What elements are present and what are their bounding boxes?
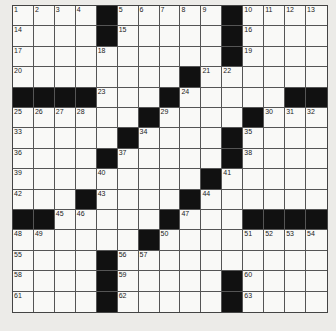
grid-cell[interactable]: 43	[97, 190, 118, 210]
grid-cell[interactable]	[76, 230, 97, 250]
grid-cell[interactable]	[160, 271, 181, 291]
grid-cell[interactable]: 14	[13, 26, 34, 46]
grid-cell[interactable]: 5	[118, 6, 139, 26]
grid-cell[interactable]	[118, 47, 139, 67]
grid-cell[interactable]: 17	[13, 47, 34, 67]
grid-cell[interactable]: 27	[55, 108, 76, 128]
grid-cell[interactable]: 11	[264, 6, 285, 26]
grid-cell[interactable]	[139, 210, 160, 230]
grid-cell[interactable]	[285, 149, 306, 169]
grid-cell[interactable]	[264, 128, 285, 148]
grid-cell[interactable]	[160, 26, 181, 46]
grid-cell[interactable]	[139, 26, 160, 46]
grid-cell[interactable]	[139, 67, 160, 87]
grid-cell[interactable]: 42	[13, 190, 34, 210]
grid-cell[interactable]	[243, 190, 264, 210]
grid-cell[interactable]	[118, 108, 139, 128]
grid-cell[interactable]	[201, 210, 222, 230]
grid-cell[interactable]: 39	[13, 169, 34, 189]
grid-cell[interactable]	[306, 26, 327, 46]
grid-cell[interactable]	[139, 190, 160, 210]
grid-cell[interactable]	[55, 149, 76, 169]
grid-cell[interactable]: 61	[13, 292, 34, 312]
grid-cell[interactable]	[243, 88, 264, 108]
grid-cell[interactable]	[222, 210, 243, 230]
grid-cell[interactable]	[243, 67, 264, 87]
grid-cell[interactable]	[55, 251, 76, 271]
grid-cell[interactable]	[264, 169, 285, 189]
grid-cell[interactable]: 60	[243, 271, 264, 291]
grid-cell[interactable]: 34	[139, 128, 160, 148]
grid-cell[interactable]: 54	[306, 230, 327, 250]
grid-cell[interactable]	[306, 169, 327, 189]
grid-cell[interactable]	[180, 108, 201, 128]
grid-cell[interactable]: 9	[201, 6, 222, 26]
grid-cell[interactable]	[34, 26, 55, 46]
grid-cell[interactable]	[264, 271, 285, 291]
grid-cell[interactable]	[201, 47, 222, 67]
grid-cell[interactable]	[201, 149, 222, 169]
grid-cell[interactable]	[285, 169, 306, 189]
grid-cell[interactable]	[264, 47, 285, 67]
grid-cell[interactable]: 1	[13, 6, 34, 26]
grid-cell[interactable]	[180, 47, 201, 67]
grid-cell[interactable]: 2	[34, 6, 55, 26]
grid-cell[interactable]	[118, 230, 139, 250]
grid-cell[interactable]	[180, 149, 201, 169]
grid-cell[interactable]	[243, 169, 264, 189]
grid-cell[interactable]	[160, 47, 181, 67]
grid-cell[interactable]	[285, 128, 306, 148]
grid-cell[interactable]	[118, 190, 139, 210]
grid-cell[interactable]	[34, 251, 55, 271]
grid-cell[interactable]: 44	[201, 190, 222, 210]
grid-cell[interactable]: 10	[243, 6, 264, 26]
grid-cell[interactable]: 58	[13, 271, 34, 291]
grid-cell[interactable]	[264, 292, 285, 312]
grid-cell[interactable]	[264, 251, 285, 271]
grid-cell[interactable]: 47	[180, 210, 201, 230]
grid-cell[interactable]	[201, 128, 222, 148]
grid-cell[interactable]	[34, 292, 55, 312]
grid-cell[interactable]: 4	[76, 6, 97, 26]
grid-cell[interactable]	[97, 128, 118, 148]
grid-cell[interactable]: 40	[97, 169, 118, 189]
grid-cell[interactable]: 50	[160, 230, 181, 250]
grid-cell[interactable]	[97, 210, 118, 230]
grid-cell[interactable]: 19	[243, 47, 264, 67]
grid-cell[interactable]	[118, 210, 139, 230]
grid-cell[interactable]	[180, 26, 201, 46]
grid-cell[interactable]: 51	[243, 230, 264, 250]
grid-cell[interactable]	[55, 271, 76, 291]
grid-cell[interactable]	[76, 47, 97, 67]
grid-cell[interactable]: 13	[306, 6, 327, 26]
grid-cell[interactable]	[160, 251, 181, 271]
grid-cell[interactable]: 46	[76, 210, 97, 230]
grid-cell[interactable]	[34, 169, 55, 189]
grid-cell[interactable]	[55, 169, 76, 189]
grid-cell[interactable]	[55, 47, 76, 67]
grid-cell[interactable]	[201, 271, 222, 291]
grid-cell[interactable]	[180, 128, 201, 148]
grid-cell[interactable]	[139, 271, 160, 291]
grid-cell[interactable]	[97, 230, 118, 250]
grid-cell[interactable]: 21	[201, 67, 222, 87]
grid-cell[interactable]	[201, 88, 222, 108]
grid-cell[interactable]: 37	[118, 149, 139, 169]
grid-cell[interactable]	[76, 67, 97, 87]
grid-cell[interactable]: 7	[160, 6, 181, 26]
grid-cell[interactable]	[201, 251, 222, 271]
grid-cell[interactable]	[306, 271, 327, 291]
grid-cell[interactable]: 8	[180, 6, 201, 26]
grid-cell[interactable]	[180, 169, 201, 189]
grid-cell[interactable]: 49	[34, 230, 55, 250]
grid-cell[interactable]: 52	[264, 230, 285, 250]
grid-cell[interactable]	[201, 230, 222, 250]
grid-cell[interactable]: 41	[222, 169, 243, 189]
grid-cell[interactable]: 29	[160, 108, 181, 128]
grid-cell[interactable]	[139, 149, 160, 169]
grid-cell[interactable]	[97, 108, 118, 128]
grid-cell[interactable]	[139, 88, 160, 108]
grid-cell[interactable]	[264, 67, 285, 87]
grid-cell[interactable]	[285, 47, 306, 67]
grid-cell[interactable]	[76, 169, 97, 189]
